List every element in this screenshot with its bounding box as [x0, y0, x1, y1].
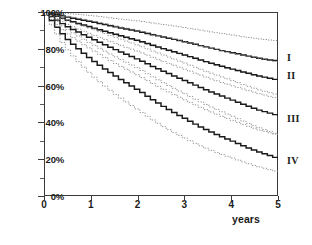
y-tick-minor-mark — [40, 67, 44, 68]
x-tick-mark — [91, 196, 92, 201]
y-tick-mark — [38, 122, 44, 123]
group-label-ii: II — [287, 70, 295, 81]
survival-curve — [44, 12, 278, 116]
y-tick-mark — [38, 49, 44, 50]
survival-curve — [44, 12, 278, 159]
group-label-iii: III — [287, 112, 300, 123]
y-tick-minor-mark — [40, 141, 44, 142]
survival-curve — [44, 12, 278, 61]
y-tick-mark — [38, 86, 44, 87]
survival-curve — [44, 12, 278, 135]
survival-curve — [44, 12, 278, 135]
y-tick-minor-mark — [40, 30, 44, 31]
x-tick-mark — [184, 196, 185, 201]
x-tick-mark — [138, 196, 139, 201]
y-tick-mark — [38, 12, 44, 13]
x-tick-mark — [231, 196, 232, 201]
y-tick-minor-mark — [40, 104, 44, 105]
group-label-i: I — [287, 52, 291, 63]
x-tick-mark — [278, 196, 279, 201]
group-label-iv: IV — [287, 155, 299, 166]
x-tick-mark — [44, 196, 45, 201]
survival-chart: 100%80%60%40%20%0% 012345 IIIIIIIV years — [0, 0, 312, 245]
curves-layer — [44, 12, 278, 172]
y-tick-minor-mark — [40, 178, 44, 179]
y-tick-mark — [38, 159, 44, 160]
x-axis-title: years — [232, 213, 260, 225]
